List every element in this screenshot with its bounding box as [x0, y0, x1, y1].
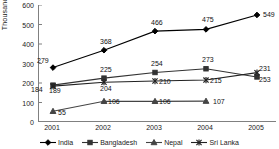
data-point — [254, 12, 260, 18]
y-axis-tick: 500 — [12, 22, 34, 29]
data-point — [50, 65, 56, 71]
x-axis-ticks: 20012002200320042005 — [0, 124, 279, 134]
y-axis-tick: 100 — [12, 100, 34, 107]
data-point — [203, 27, 209, 33]
legend-label: Nepal — [164, 139, 182, 146]
data-label: 107 — [213, 98, 225, 105]
data-label: 466 — [151, 19, 163, 26]
data-point — [101, 47, 107, 53]
data-label: 549 — [263, 11, 275, 18]
data-label: 210 — [159, 78, 171, 85]
data-point — [204, 67, 208, 71]
data-label: 368 — [100, 38, 112, 45]
data-label: 55 — [58, 109, 66, 116]
cross-marker-icon — [191, 138, 207, 147]
data-label: 225 — [100, 66, 112, 73]
data-label: 106 — [159, 98, 171, 105]
data-label: 475 — [202, 16, 214, 23]
x-axis-tick: 2005 — [236, 124, 276, 131]
x-axis-tick: 2003 — [134, 124, 174, 131]
x-axis-tick: 2004 — [185, 124, 225, 131]
series-line — [53, 101, 206, 111]
legend-item-nepal[interactable]: Nepal — [146, 138, 182, 147]
diamond-marker-icon — [40, 138, 56, 147]
y-axis-title: Thousands — [1, 0, 8, 38]
data-point — [152, 28, 158, 34]
data-label: 204 — [100, 85, 112, 92]
legend-item-bangladesh[interactable]: Bangladesh — [82, 138, 137, 147]
y-axis-tick: 600 — [12, 2, 34, 9]
data-label: 279 — [37, 57, 49, 64]
legend-item-sri-lanka[interactable]: Sri Lanka — [191, 138, 239, 147]
data-label: 189 — [49, 87, 61, 94]
data-label: 106 — [108, 98, 120, 105]
y-axis-tick: 400 — [12, 41, 34, 48]
legend-label: Sri Lanka — [209, 139, 239, 146]
data-label: 254 — [151, 60, 163, 67]
line-chart: Thousands 6005004003002001000 2793684664… — [0, 0, 279, 149]
data-label: 253 — [259, 76, 271, 83]
data-label: 273 — [202, 56, 214, 63]
legend-label: Bangladesh — [100, 139, 137, 146]
plot-area: 2793684664755491892252542732315510610610… — [38, 5, 276, 122]
triangle-marker-icon — [146, 138, 162, 147]
data-point — [153, 70, 157, 74]
x-axis-tick: 2001 — [32, 124, 72, 131]
data-label: 215 — [210, 77, 222, 84]
legend-item-india[interactable]: India — [40, 138, 73, 147]
legend-label: India — [58, 139, 73, 146]
data-label: 184 — [31, 86, 43, 93]
data-label: 231 — [259, 65, 271, 72]
x-axis-tick: 2002 — [83, 124, 123, 131]
square-marker-icon — [82, 138, 98, 147]
y-axis-tick: 300 — [12, 61, 34, 68]
chart-legend: IndiaBangladeshNepalSri Lanka — [0, 135, 279, 149]
